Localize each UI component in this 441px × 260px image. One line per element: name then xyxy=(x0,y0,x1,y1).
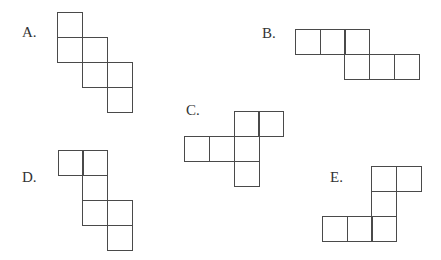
net-square xyxy=(372,167,397,192)
figure-b-label: B. xyxy=(262,25,276,42)
net-square xyxy=(83,201,108,226)
figure-e-label: E. xyxy=(330,169,343,186)
net-square xyxy=(108,88,133,113)
net-square xyxy=(59,151,84,176)
net-square xyxy=(372,217,397,242)
net-square xyxy=(235,112,260,137)
net-square xyxy=(323,217,348,242)
nets-diagram xyxy=(0,0,441,260)
net-square xyxy=(58,38,83,63)
net-square xyxy=(345,30,370,55)
net-square xyxy=(372,192,397,217)
net-square xyxy=(348,217,373,242)
net-square xyxy=(235,137,260,162)
net-square xyxy=(83,38,108,63)
figure-c-label: C. xyxy=(186,102,200,119)
net-square xyxy=(397,167,422,192)
figure-d-label: D. xyxy=(22,169,37,186)
net-square xyxy=(345,55,370,80)
net-square xyxy=(108,226,133,251)
net-square xyxy=(321,30,346,55)
net-square xyxy=(370,55,395,80)
net-square xyxy=(185,137,210,162)
net-square xyxy=(83,151,108,176)
net-square xyxy=(108,201,133,226)
net-figure-b xyxy=(296,30,420,80)
net-square xyxy=(83,176,108,201)
net-figure-d xyxy=(59,151,133,251)
figure-a-label: A. xyxy=(22,24,37,41)
net-square xyxy=(210,137,235,162)
net-square xyxy=(259,112,284,137)
net-square xyxy=(296,30,321,55)
net-square xyxy=(395,55,420,80)
net-square xyxy=(58,13,83,38)
net-square xyxy=(83,63,108,88)
net-figure-a xyxy=(58,13,133,113)
net-square xyxy=(108,63,133,88)
net-figure-c xyxy=(185,112,284,187)
net-square xyxy=(235,162,260,187)
